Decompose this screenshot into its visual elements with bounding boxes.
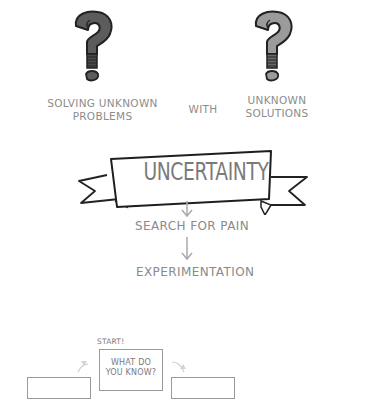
left-label-line2: PROBLEMS	[40, 110, 165, 123]
what-do-you-know-box: WHAT DO YOU KNOW?	[99, 349, 163, 391]
banner-title: UNCERTAINTY	[143, 158, 252, 186]
box-line1: WHAT DO	[100, 358, 162, 368]
left-cycle-box	[27, 377, 91, 399]
arrow-down-icon	[180, 236, 194, 262]
box-line2: YOU KNOW?	[100, 368, 162, 378]
left-label: SOLVING UNKNOWN PROBLEMS	[40, 97, 165, 123]
arrow-down-icon	[180, 200, 194, 218]
connector-label: WITH	[178, 103, 228, 116]
left-label-line1: SOLVING UNKNOWN	[40, 97, 165, 110]
question-mark-dark-icon	[70, 8, 116, 84]
right-label-line1: UNKNOWN	[232, 94, 322, 107]
flow-step-experimentation: EXPERIMENTATION	[136, 265, 254, 279]
cycle-arrow-left-icon	[72, 358, 92, 374]
right-label: UNKNOWN SOLUTIONS	[232, 94, 322, 120]
right-label-line2: SOLUTIONS	[232, 107, 322, 120]
start-label: START!	[97, 337, 124, 347]
right-cycle-box	[171, 377, 235, 399]
flow-step-search-for-pain: SEARCH FOR PAIN	[135, 219, 249, 233]
cycle-arrow-right-icon	[170, 358, 190, 374]
question-mark-light-icon	[250, 8, 296, 84]
